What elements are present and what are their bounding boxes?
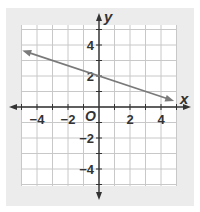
y-tick-label: 2 — [87, 69, 94, 84]
y-tick-label: −4 — [79, 162, 95, 177]
y-axis-label: y — [103, 8, 113, 25]
y-tick-label: 4 — [87, 38, 95, 53]
y-tick-label: −2 — [79, 131, 94, 146]
x-tick-label: −4 — [30, 112, 46, 127]
coordinate-plane: −4−22442−2−4 x y O — [0, 0, 200, 212]
x-tick-label: 2 — [126, 112, 133, 127]
x-axis-label: x — [179, 90, 189, 107]
origin-label: O — [85, 108, 96, 124]
x-tick-label: 4 — [157, 112, 165, 127]
x-tick-label: −2 — [61, 112, 76, 127]
